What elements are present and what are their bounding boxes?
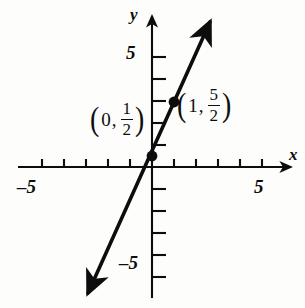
open-paren-intercept: ( xyxy=(90,105,99,133)
x-value-intercept: 0 xyxy=(100,110,112,129)
fraction-numerator-intercept: 1 xyxy=(121,100,134,118)
x-tick-label-5: 5 xyxy=(254,177,264,196)
fraction-five-halves: 5 2 xyxy=(207,86,222,125)
fraction-denominator-intercept: 2 xyxy=(121,121,134,139)
coordinate-plane-figure: y x 5 –5 –5 5 ( 0 , 1 2 ) ( 1 , 5 2 ) xyxy=(0,0,305,308)
x-axis-label: x xyxy=(289,146,298,163)
x-tick-label-negative-5: –5 xyxy=(17,177,36,196)
open-paren-second: ( xyxy=(177,91,186,119)
comma-intercept: , xyxy=(112,110,120,129)
fraction-numerator-second: 5 xyxy=(208,86,221,104)
fraction-one-half: 1 2 xyxy=(120,100,135,139)
y-axis-label: y xyxy=(130,6,138,23)
comma-second: , xyxy=(199,96,207,115)
y-tick-label-negative-5: –5 xyxy=(119,253,138,272)
fraction-denominator-second: 2 xyxy=(208,107,221,125)
annotation-second-point: ( 1 , 5 2 ) xyxy=(176,86,232,125)
x-value-second: 1 xyxy=(187,96,199,115)
y-tick-label-5: 5 xyxy=(126,43,136,62)
close-paren-intercept: ) xyxy=(135,105,144,133)
plot-canvas xyxy=(0,0,305,308)
point-y-intercept xyxy=(147,151,158,162)
close-paren-second: ) xyxy=(222,91,231,119)
annotation-y-intercept: ( 0 , 1 2 ) xyxy=(89,100,145,139)
